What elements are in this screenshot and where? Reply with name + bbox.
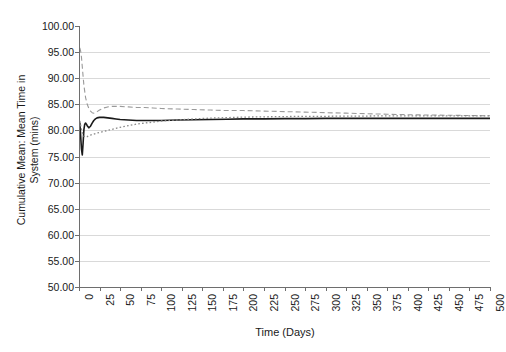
- x-axis-tick-mark: [449, 287, 450, 291]
- x-axis-tick-mark: [326, 287, 327, 291]
- x-axis-tick-label: 275: [309, 294, 321, 312]
- y-axis-tick-label: 85.00: [28, 98, 74, 110]
- x-axis-tick-label: 475: [473, 294, 485, 312]
- x-axis-tick-label: 50: [124, 294, 136, 306]
- x-axis-tick-label: 350: [371, 294, 383, 312]
- x-axis-tick-mark: [367, 287, 368, 291]
- x-axis-tick-label: 250: [289, 294, 301, 312]
- x-axis-tick-mark: [120, 287, 121, 291]
- x-axis-tick-label: 75: [145, 294, 157, 306]
- y-axis-tick-label: 70.00: [28, 177, 74, 189]
- y-axis-tick-mark: [75, 26, 79, 27]
- y-axis-tick-mark: [75, 209, 79, 210]
- x-axis-tick-mark: [202, 287, 203, 291]
- x-axis-tick-mark: [161, 287, 162, 291]
- x-axis-tick-mark: [243, 287, 244, 291]
- x-axis-tick-label: 175: [227, 294, 239, 312]
- y-axis-tick-mark: [75, 78, 79, 79]
- x-axis-tick-label: 325: [350, 294, 362, 312]
- x-axis-title: Time (Days): [79, 326, 491, 338]
- x-axis-tick-mark: [182, 287, 183, 291]
- x-axis-tick-label: 225: [268, 294, 280, 312]
- y-axis-tick-label: 65.00: [28, 203, 74, 215]
- y-axis-tick-label: 50.00: [28, 281, 74, 293]
- x-axis-tick-label: 0: [83, 294, 95, 300]
- figure-caption: [8, 344, 495, 352]
- x-axis-tick-mark: [223, 287, 224, 291]
- y-axis-tick-mark: [75, 235, 79, 236]
- y-axis-tick-label: 60.00: [28, 229, 74, 241]
- x-axis-tick-mark: [79, 287, 80, 291]
- x-axis-tick-label: 300: [330, 294, 342, 312]
- y-axis-tick-label: 100.00: [28, 20, 74, 32]
- x-axis-tick-mark: [408, 287, 409, 291]
- x-axis-tick-mark: [469, 287, 470, 291]
- y-axis-tick-mark: [75, 130, 79, 131]
- x-axis-tick-label: 150: [206, 294, 218, 312]
- x-axis-tick-label: 125: [186, 294, 198, 312]
- x-axis-tick-label: 500: [494, 294, 506, 312]
- x-axis-tick-mark: [428, 287, 429, 291]
- y-axis-tick-label: 90.00: [28, 72, 74, 84]
- y-axis-tick-mark: [75, 183, 79, 184]
- x-axis-tick-label: 450: [453, 294, 465, 312]
- x-axis-tick-label: 100: [165, 294, 177, 312]
- x-axis-tick-mark: [100, 287, 101, 291]
- y-axis-tick-label: 95.00: [28, 46, 74, 58]
- x-axis-tick-mark: [490, 287, 491, 291]
- plot-area: [79, 26, 490, 287]
- x-axis-tick-label: 375: [391, 294, 403, 312]
- y-axis-tick-mark: [75, 52, 79, 53]
- x-axis-tick-label: 200: [247, 294, 259, 312]
- series-line: [80, 48, 490, 116]
- y-axis-tick-mark: [75, 104, 79, 105]
- x-axis-tick-mark: [141, 287, 142, 291]
- x-axis-tick-mark: [346, 287, 347, 291]
- x-axis-tick-mark: [264, 287, 265, 291]
- x-axis-tick-label: 425: [432, 294, 444, 312]
- y-axis-tick-label: 55.00: [28, 255, 74, 267]
- y-axis-tick-mark: [75, 157, 79, 158]
- y-axis-line: [79, 26, 80, 288]
- x-axis-tick-mark: [285, 287, 286, 291]
- series-lines: [79, 26, 490, 287]
- y-axis-tick-label: 80.00: [28, 124, 74, 136]
- x-axis-tick-mark: [305, 287, 306, 291]
- series-line: [80, 117, 490, 155]
- x-axis-tick-mark: [387, 287, 388, 291]
- x-axis-tick-label: 25: [104, 294, 116, 306]
- y-axis-tick-labels: 100.0095.0090.0085.0080.0075.0070.0065.0…: [24, 26, 74, 287]
- y-axis-tick-label: 75.00: [28, 151, 74, 163]
- x-axis-tick-label: 400: [412, 294, 424, 312]
- y-axis-tick-mark: [75, 261, 79, 262]
